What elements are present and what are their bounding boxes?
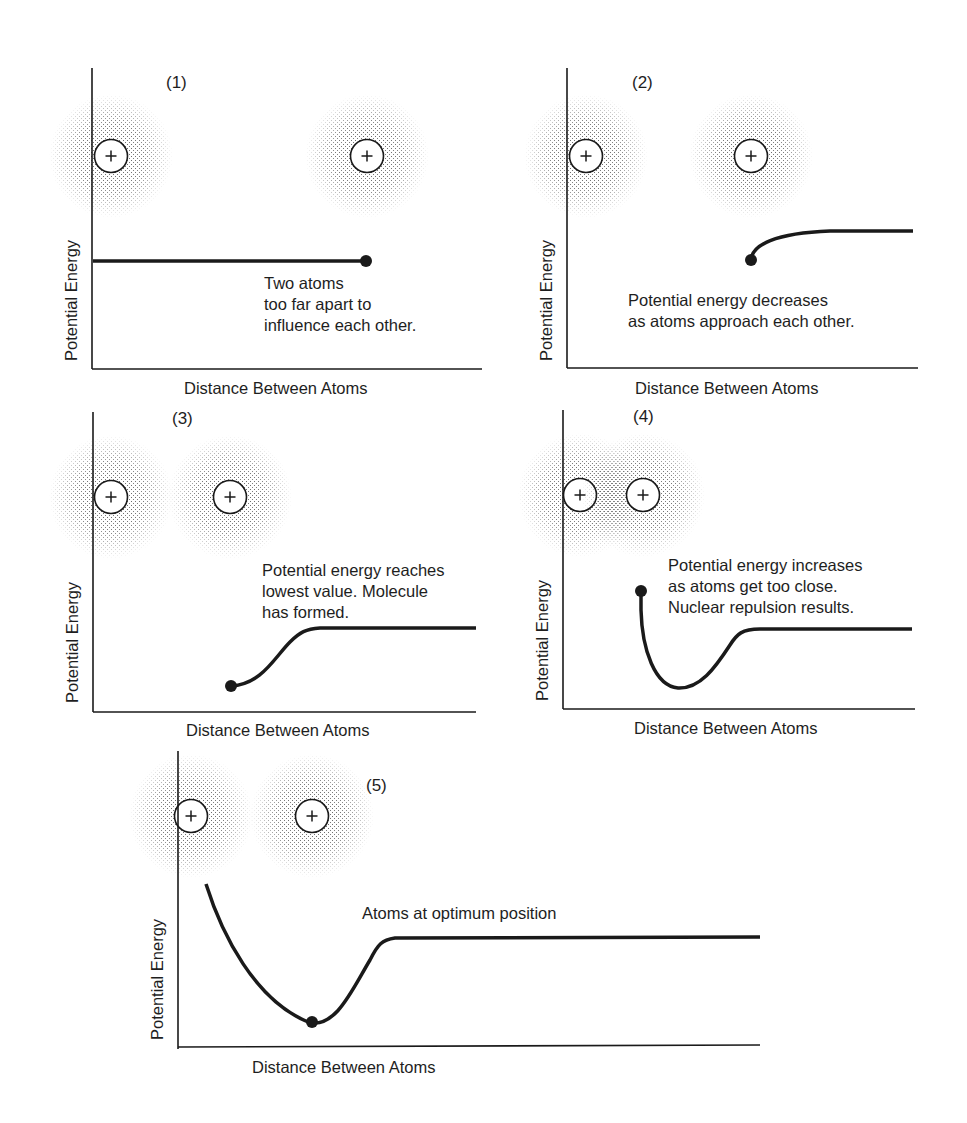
- panel-label: (4): [633, 406, 654, 427]
- y-axis-label: Potential Energy: [537, 240, 556, 361]
- atom-right-icon: [250, 754, 374, 878]
- annotation: Potential energy decreases as atoms appr…: [628, 290, 855, 332]
- atom-right-icon: [305, 94, 429, 218]
- x-axis-label: Distance Between Atoms: [635, 378, 818, 399]
- annotation: Potential energy reaches lowest value. M…: [262, 560, 445, 623]
- y-axis-label: Potential Energy: [62, 240, 81, 361]
- annotation: Two atoms too far apart to influence eac…: [264, 273, 416, 336]
- panel-label: (1): [166, 72, 187, 93]
- x-axis-label: Distance Between Atoms: [186, 720, 369, 741]
- position-marker: [225, 680, 237, 692]
- x-axis-label: Distance Between Atoms: [252, 1057, 435, 1078]
- y-axis-label: Potential Energy: [533, 580, 552, 701]
- annotation: Atoms at optimum position: [362, 903, 556, 924]
- atom-left-icon: [524, 94, 648, 218]
- position-marker: [360, 255, 372, 267]
- panel-5: [129, 751, 760, 1049]
- atom-left-icon: [129, 754, 253, 878]
- x-axis-label: Distance Between Atoms: [634, 718, 817, 739]
- atom-right-icon: [581, 433, 705, 557]
- y-axis-label: Potential Energy: [63, 582, 82, 703]
- atom-left-icon: [49, 94, 173, 218]
- y-axis-label: Potential Energy: [148, 919, 167, 1040]
- atom-right-icon: [689, 94, 813, 218]
- x-axis: [178, 1045, 760, 1047]
- position-marker: [745, 254, 757, 266]
- panel-label: (5): [366, 775, 387, 796]
- energy-curve: [231, 628, 476, 686]
- energy-curve: [751, 231, 913, 260]
- position-marker: [306, 1016, 318, 1028]
- annotation: Potential energy increases as atoms get …: [668, 555, 862, 618]
- panel-label: (3): [172, 408, 193, 429]
- atom-right-icon: [168, 435, 292, 559]
- panel-label: (2): [632, 72, 653, 93]
- atom-left-icon: [49, 435, 173, 559]
- position-marker: [635, 585, 647, 597]
- x-axis-label: Distance Between Atoms: [184, 378, 367, 399]
